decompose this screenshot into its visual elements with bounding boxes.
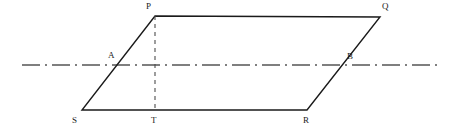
vertex-label-R: R bbox=[303, 116, 309, 125]
vertex-label-T: T bbox=[151, 116, 157, 125]
vertex-label-Q: Q bbox=[382, 2, 389, 11]
vertex-label-B: B bbox=[347, 52, 353, 61]
vertex-label-A: A bbox=[108, 51, 115, 60]
geometry-figure: P Q R S T A B bbox=[0, 0, 463, 131]
vertex-label-P: P bbox=[146, 2, 151, 11]
parallelogram-PQRS bbox=[82, 16, 380, 110]
vertex-label-S: S bbox=[72, 116, 77, 125]
figure-canvas bbox=[0, 0, 463, 131]
